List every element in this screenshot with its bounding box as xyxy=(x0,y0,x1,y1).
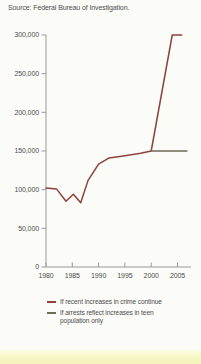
legend-line-population-icon xyxy=(47,312,56,314)
svg-text:2005: 2005 xyxy=(170,272,185,279)
svg-text:1995: 1995 xyxy=(117,272,132,279)
svg-text:50,000: 50,000 xyxy=(18,225,39,232)
page-bottom-band xyxy=(0,350,201,364)
svg-text:2000: 2000 xyxy=(144,272,159,279)
svg-text:250,000: 250,000 xyxy=(14,70,39,77)
svg-text:150,000: 150,000 xyxy=(14,147,39,154)
chart-legend: If recent increases in crime continue If… xyxy=(47,298,187,326)
svg-text:1990: 1990 xyxy=(91,272,106,279)
legend-label-crime: If recent increases in crime continue xyxy=(60,298,162,307)
svg-text:100,000: 100,000 xyxy=(14,186,39,193)
legend-line-crime-icon xyxy=(47,301,56,303)
legend-item-crime: If recent increases in crime continue xyxy=(47,298,187,307)
legend-label-population: If arrests reflect increases in teen pop… xyxy=(60,309,172,326)
svg-text:200,000: 200,000 xyxy=(14,109,39,116)
svg-text:300,000: 300,000 xyxy=(14,31,39,38)
svg-text:0: 0 xyxy=(35,263,39,270)
figure-page: Source: Federal Bureau of Investigation.… xyxy=(0,0,201,364)
svg-text:1985: 1985 xyxy=(65,272,80,279)
legend-item-population: If arrests reflect increases in teen pop… xyxy=(47,309,187,326)
svg-text:1980: 1980 xyxy=(38,272,53,279)
